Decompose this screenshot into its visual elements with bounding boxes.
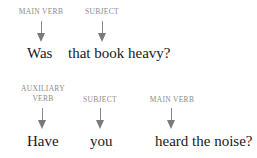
arrow-down-icon <box>98 21 106 43</box>
arrow-down-icon <box>96 108 104 130</box>
label-main-verb: MAIN VERB <box>19 7 63 17</box>
arrow-down-icon <box>38 108 46 130</box>
label-subject: SUBJECT <box>83 95 117 105</box>
label-subject: SUBJECT <box>85 7 119 17</box>
label-main-verb: MAIN VERB <box>150 95 194 105</box>
label-auxiliary-verb: AUXILIARY VERB <box>21 84 65 104</box>
word-main-verb-phrase: heard the noise? <box>155 133 252 149</box>
arrow-down-icon <box>37 21 45 43</box>
word-subject: you <box>90 133 113 149</box>
label-auxiliary-line2: VERB <box>32 94 53 103</box>
arrow-down-icon <box>167 108 175 130</box>
word-main-verb: Was <box>27 45 52 61</box>
word-auxiliary-verb: Have <box>27 133 59 149</box>
label-auxiliary-line1: AUXILIARY <box>21 84 65 93</box>
word-subject-phrase: that book heavy? <box>68 45 170 61</box>
